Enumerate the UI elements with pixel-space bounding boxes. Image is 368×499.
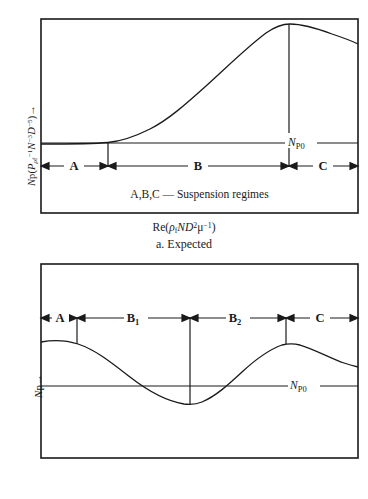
suspension-regimes-note: A,B,C — Suspension regimes — [41, 188, 358, 200]
plot-frame — [41, 19, 358, 213]
figure-observed: A B1 B2 C NP0 Np→ Re → b. Observed — [0, 250, 368, 499]
figure-expected: A B C NP0 Np(Pρf−1N−3D−5)→ A,B,C — Suspe… — [0, 0, 368, 250]
x-axis-label-expected: Re(ρfND2μ−1) — [0, 219, 368, 238]
plot-frame — [41, 264, 358, 458]
power-number-curve — [41, 341, 358, 405]
caption-expected: Re(ρfND2μ−1) a. Expected — [0, 219, 368, 251]
power-number-curve — [41, 24, 358, 144]
region-label-b: B — [194, 159, 202, 173]
region-label-c: C — [318, 159, 327, 173]
observed-plot-drawing: A B1 B2 C NP0 — [0, 250, 368, 462]
region-label-c: C — [315, 311, 324, 325]
region-label-a: A — [55, 311, 64, 325]
expected-plot-canvas: A B C NP0 — [0, 0, 368, 219]
y-axis-label-observed: Np→ — [32, 374, 44, 398]
y-axis-label-expected: Np(Pρf−1N−3D−5)→ — [26, 105, 39, 186]
region-label-a: A — [69, 159, 78, 173]
